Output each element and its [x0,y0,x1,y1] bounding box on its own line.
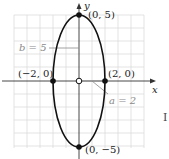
co-vertex-left-point [50,78,56,84]
vertex-bottom-point [76,144,82,150]
b-annotation-label: b = 5 [19,42,47,53]
co-vertex-left-label: (−2, 0) [18,68,53,79]
x-axis-arrow-icon [150,79,156,84]
co-vertex-right-label: (2, 0) [108,68,135,79]
ellipse-diagram: y x (0, 5) (0, −5) (−2, 0) (2, 0) b = 5 … [0,0,169,159]
center-point [76,78,82,84]
co-vertex-right-point [102,78,108,84]
vertex-top-label: (0, 5) [88,9,115,20]
edge-text: I [163,111,167,124]
y-axis-arrow-icon [77,3,82,9]
x-axis-label: x [152,84,158,95]
vertex-bottom-label: (0, −5) [85,144,120,155]
vertex-top-point [76,12,82,18]
a-annotation-label: a = 2 [109,95,136,106]
